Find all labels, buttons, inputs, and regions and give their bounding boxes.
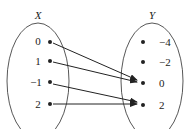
y-point	[141, 103, 145, 107]
x-point	[48, 80, 52, 84]
y-element: 2	[159, 99, 165, 111]
y-element: −2	[159, 56, 171, 68]
x-element: 1	[35, 55, 41, 67]
set-y: Y −4 −2 0 2	[121, 9, 183, 129]
x-point	[48, 102, 52, 106]
y-point	[141, 81, 145, 85]
arrow-neg1-to-2	[53, 84, 137, 102]
x-element: −1	[30, 76, 42, 88]
arrow-1-to-0	[53, 62, 137, 82]
mapping-diagram: X 0 1 −1 2 Y −4 −2 0 2	[0, 0, 191, 129]
y-element: −4	[159, 36, 171, 48]
set-x-label: X	[34, 9, 43, 21]
y-element: 0	[159, 77, 165, 89]
x-point	[48, 40, 52, 44]
set-y-ellipse	[121, 23, 183, 129]
x-point	[48, 59, 52, 63]
x-element: 0	[35, 35, 41, 47]
mapping-arrows	[53, 43, 137, 104]
set-y-label: Y	[149, 9, 157, 21]
x-element: 2	[35, 98, 41, 110]
y-point	[141, 40, 145, 44]
set-x: X 0 1 −1 2	[7, 9, 69, 129]
y-point	[141, 60, 145, 64]
arrow-0-to-0	[53, 43, 137, 80]
